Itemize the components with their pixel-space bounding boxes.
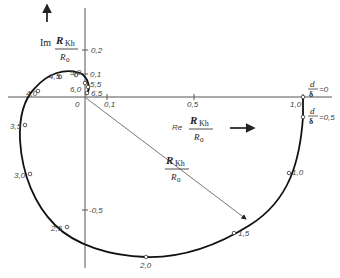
- svg-text:R: R: [193, 132, 200, 142]
- svg-text:=0: =0: [319, 85, 329, 94]
- point-label: 3,5: [10, 122, 22, 131]
- svg-text:d: d: [310, 106, 315, 116]
- origin-label: 0: [75, 100, 80, 109]
- svg-text:0: 0: [66, 56, 70, 64]
- imag-tick-0-2: 0,2: [91, 46, 103, 55]
- svg-text:Re: Re: [172, 123, 183, 132]
- real-tick-0-1: 0,1: [104, 100, 115, 109]
- point-label: 6,5: [91, 89, 103, 98]
- d-delta-0-annotation: d δ =0: [308, 79, 329, 99]
- imag-axis-label: Im R Kh R 0: [40, 34, 78, 64]
- real-tick-1-0: 1,0: [290, 100, 302, 109]
- svg-text:Kh: Kh: [65, 39, 75, 48]
- svg-text:δ: δ: [309, 117, 313, 126]
- svg-text:d: d: [310, 79, 315, 89]
- vector-label: R Kh R 0: [165, 154, 189, 184]
- svg-text:δ: δ: [309, 90, 313, 99]
- svg-text:Kh: Kh: [175, 159, 185, 168]
- point-label: 2,0: [139, 261, 152, 270]
- real-tick-0-5: 0,5: [187, 100, 199, 109]
- point-label: 2,5: [50, 224, 63, 233]
- svg-text:R: R: [165, 154, 173, 166]
- point-label: 5,0: [70, 68, 82, 77]
- svg-text:Kh: Kh: [199, 119, 209, 128]
- d-delta-05-annotation: d δ =0,5: [308, 106, 335, 126]
- svg-text:R: R: [189, 114, 197, 126]
- svg-text:R: R: [59, 52, 66, 62]
- point-label: 6,0: [70, 85, 82, 94]
- point-label: 1,0: [292, 168, 304, 177]
- svg-text:=0,5: =0,5: [319, 113, 335, 122]
- nyquist-diagram: 0,2 0,1 -0,5 0,1 0,5 1,0 0 6,5 6,0 5,5 5…: [0, 0, 340, 278]
- svg-text:Im: Im: [40, 37, 51, 48]
- real-axis-label: Re R Kh R 0: [172, 114, 213, 144]
- svg-text:0: 0: [177, 176, 181, 184]
- point-label: 3,0: [14, 171, 26, 180]
- imag-tick-neg-0-5: -0,5: [89, 206, 103, 215]
- svg-text:0: 0: [200, 136, 204, 144]
- svg-text:R: R: [170, 172, 177, 182]
- locus-curve: [20, 71, 303, 257]
- point-label: 5,5: [90, 80, 102, 89]
- point-label: 4,0: [26, 89, 38, 98]
- point-label: 4,5: [49, 72, 61, 81]
- point-label: 1,5: [238, 229, 250, 238]
- svg-text:R: R: [55, 34, 63, 46]
- imag-tick-0-1: 0,1: [90, 70, 101, 79]
- curve-markers: [23, 73, 305, 259]
